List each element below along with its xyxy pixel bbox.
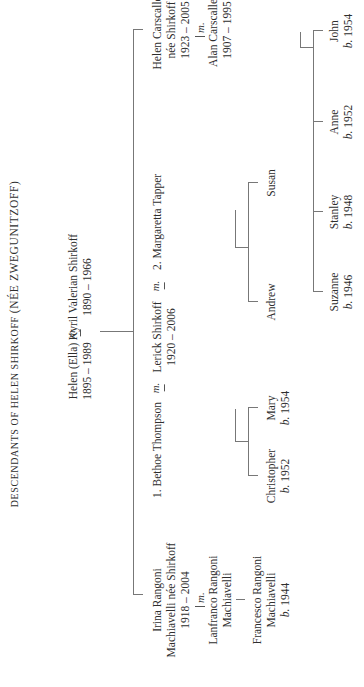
marriage-marker-helen: m. — [194, 22, 206, 37]
stem-line-margaretta — [235, 210, 236, 248]
person-birth: 1946 — [342, 275, 354, 298]
person-name: Helen (Ella) — [66, 342, 80, 400]
stem-drop-margaretta — [235, 247, 248, 248]
person-lanfranco: Lanfranco Rangoni Machiavelli — [206, 555, 234, 644]
person-suzanne: Suzanne b. 1946 — [327, 273, 355, 312]
person-name-line1: Lanfranco Rangoni — [206, 555, 220, 644]
sibling-bracket-line — [133, 29, 134, 595]
bracket-stub-christopher — [248, 475, 258, 476]
person-birth: 1954 — [279, 391, 291, 414]
parent-stem-line — [100, 331, 133, 332]
stem-line-carscallen — [300, 32, 301, 48]
person-margaretta-tapper: 2. Margaretta Tapper — [150, 174, 164, 270]
person-helen-carscallen: Helen Carscallen née Shirkoff 1923 – 200… — [150, 0, 192, 69]
person-name-line2: née Shirkoff — [164, 0, 178, 69]
title-suffix: (NÉE ZWEGUNITZOFF) — [8, 181, 20, 313]
person-name-line2: Machiavelli — [264, 556, 278, 644]
person-dates: 1920 – 2006 — [164, 301, 178, 372]
marriage-symbol: m. — [194, 22, 206, 33]
birth-prefix: b. — [342, 221, 354, 230]
person-name: Christopher — [264, 449, 278, 503]
person-dates: 1890 – 1966 — [80, 234, 94, 340]
person-name: 2. Margaretta Tapper — [150, 174, 164, 270]
person-birth: 1948 — [342, 195, 354, 218]
marriage-symbol: m. — [149, 383, 161, 394]
bracket-stub-stanley — [313, 211, 323, 212]
person-name-line2: Machiavelli — [220, 555, 234, 644]
person-andrew: Andrew — [264, 283, 278, 320]
marriage-bar — [164, 283, 165, 290]
person-kyril-shirkoff: Kyril Valerian Shirkoff 1890 – 1966 — [66, 234, 94, 340]
person-irina: Irina Rangoni Machiavelli née Shirkoff 1… — [150, 543, 192, 658]
descent-line-francesco — [236, 599, 245, 600]
person-lerick-shirkoff: Lerick Shirkoff 1920 – 2006 — [150, 301, 178, 372]
person-name: Anne — [327, 105, 341, 140]
person-name-line1: Helen Carscallen — [150, 0, 164, 69]
person-john: John b. 1954 — [327, 14, 355, 49]
person-name: Kyril Valerian Shirkoff — [66, 234, 80, 340]
birth-prefix: b. — [342, 40, 354, 49]
person-name-line1: Francesco Rangoni — [250, 556, 264, 644]
children-bracket-margaretta — [248, 182, 249, 302]
person-mary: Mary b. 1954 — [264, 391, 292, 426]
person-name-line1: Irina Rangoni — [150, 543, 164, 658]
bracket-stub-john — [313, 30, 323, 31]
birth-prefix: b. — [279, 417, 291, 426]
person-name: Alan Carscallen — [206, 0, 220, 67]
person-birth: 1944 — [279, 583, 291, 606]
person-name: 1. Bethoe Thompson — [150, 402, 164, 498]
person-birth: 1952 — [342, 105, 354, 128]
person-name-line2: Machiavelli née Shirkoff — [164, 543, 178, 658]
marriage-marker-margaretta: m. — [150, 281, 165, 292]
stem-drop-carscallen — [300, 47, 313, 48]
person-susan: Susan — [264, 169, 278, 196]
marriage-marker-bethoe: m. — [150, 383, 165, 394]
bracket-stub-suzanne — [313, 291, 323, 292]
person-name: Stanley — [327, 195, 341, 230]
stem-drop-bethoe — [235, 441, 248, 442]
children-bracket-bethoe — [248, 407, 249, 476]
bracket-stub-anne — [313, 121, 323, 122]
person-francesco: Francesco Rangoni Machiavelli b. 1944 — [250, 556, 292, 644]
person-dates: 1923 – 2005 — [178, 0, 192, 69]
person-christopher: Christopher b. 1952 — [264, 449, 292, 503]
birth-prefix: b. — [279, 609, 291, 618]
bracket-stub-helen — [133, 29, 143, 30]
diagram-title: DESCENDANTS OF HELEN SHIRKOFF (NÉE ZWEGU… — [8, 181, 20, 508]
bracket-stub-mary — [248, 407, 258, 408]
person-name: Andrew — [264, 283, 278, 320]
birth-prefix: b. — [279, 485, 291, 494]
marriage-symbol: m. — [149, 281, 161, 292]
person-birth: 1952 — [279, 459, 291, 482]
marriage-symbol: m. — [194, 592, 206, 603]
marriage-marker-irina: m. — [194, 592, 206, 607]
person-bethoe-thompson: 1. Bethoe Thompson — [150, 402, 164, 498]
person-anne: Anne b. 1952 — [327, 105, 355, 140]
birth-prefix: b. — [342, 131, 354, 140]
bracket-stub-susan — [248, 182, 258, 183]
title-prefix: DESCENDANTS OF HELEN SHIRKOFF — [9, 316, 20, 507]
person-name: Lerick Shirkoff — [150, 301, 164, 372]
person-dates: 1918 – 2004 — [178, 543, 192, 658]
person-name: Susan — [264, 169, 278, 196]
person-stanley: Stanley b. 1948 — [327, 195, 355, 230]
person-alan-carscallen: Alan Carscallen 1907 – 1995 — [206, 0, 234, 67]
person-birth: 1954 — [342, 14, 354, 37]
person-name: Suzanne — [327, 273, 341, 312]
birth-prefix: b. — [342, 301, 354, 310]
person-name: John — [327, 14, 341, 49]
stem-line-bethoe — [235, 409, 236, 442]
person-name: Mary — [264, 391, 278, 426]
children-bracket-carscallen — [313, 30, 314, 292]
bracket-stub-andrew — [248, 301, 258, 302]
bracket-stub-irina — [133, 594, 143, 595]
person-dates: 1895 – 1989 — [80, 342, 94, 400]
family-tree-diagram: DESCENDANTS OF HELEN SHIRKOFF (NÉE ZWEGU… — [0, 0, 364, 687]
person-helen-ella: Helen (Ella) 1895 – 1989 — [66, 342, 94, 400]
person-dates: 1907 – 1995 — [220, 0, 234, 67]
marriage-bar — [164, 385, 165, 392]
